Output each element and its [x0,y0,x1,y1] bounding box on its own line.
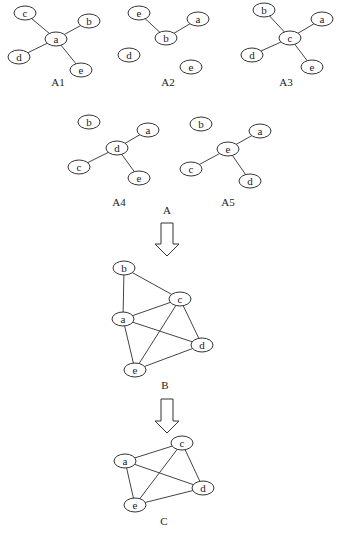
edge-b-a [123,268,124,319]
node-c: c [14,6,36,20]
panel-label-A4: A4 [112,196,125,208]
svg-text:e: e [310,61,315,73]
svg-text:d: d [200,482,206,494]
node-d: d [241,48,263,62]
svg-text:d: d [16,51,22,63]
node-b: b [78,115,100,129]
node-e: e [70,63,92,77]
edge-a-d [125,461,203,488]
panel-label-C: C [160,515,167,527]
node-d: d [8,50,30,64]
node-e: e [124,363,146,377]
svg-text:b: b [121,262,127,274]
panel-label-A2: A2 [161,76,174,88]
node-e: e [217,142,239,156]
node-d: d [239,174,261,188]
panel-label-A1: A1 [51,76,64,88]
panel-A5: baecd [180,117,271,188]
node-d: d [191,338,213,352]
node-a: a [311,12,333,26]
node-d: d [106,141,128,155]
edge-c-e [135,443,182,505]
svg-text:d: d [126,49,132,61]
svg-text:e: e [189,61,194,73]
node-b: b [190,117,212,131]
node-b: b [113,261,135,275]
edge-a-d [123,319,202,345]
svg-text:d: d [249,49,255,61]
svg-text:a: a [196,13,201,25]
svg-text:c: c [23,7,28,19]
node-e: e [124,498,146,512]
panel-label-B: B [161,379,168,391]
node-a: a [187,12,209,26]
node-a: a [45,32,67,46]
panel-C: cade [114,436,214,512]
svg-text:a: a [123,455,128,467]
svg-text:e: e [137,7,142,19]
svg-text:c: c [178,293,183,305]
edge-a-e [123,319,135,370]
node-e: e [128,171,150,185]
svg-text:c: c [288,32,293,44]
svg-text:e: e [133,364,138,376]
node-d: d [118,48,140,62]
panel-label-A5: A5 [221,196,234,208]
panel-A2: eabde [118,6,209,74]
svg-text:b: b [163,32,169,44]
svg-text:b: b [86,15,92,27]
node-e: e [128,6,150,20]
svg-text:e: e [79,64,84,76]
svg-text:d: d [114,142,120,154]
node-a: a [249,124,271,138]
node-e: e [180,60,202,74]
node-b: b [155,31,177,45]
node-e: e [301,60,323,74]
edge-e-d [135,345,202,370]
node-a: a [114,454,136,468]
group-label-A: A [163,204,171,216]
node-c: c [68,160,90,174]
panel-B: bcade [112,261,213,377]
svg-text:c: c [189,163,194,175]
node-a: a [137,123,159,137]
node-c: c [180,162,202,176]
svg-text:e: e [137,172,142,184]
svg-text:a: a [54,33,59,45]
svg-text:b: b [198,118,204,130]
node-c: c [171,436,193,450]
svg-text:c: c [77,161,82,173]
svg-text:b: b [261,4,267,16]
svg-text:a: a [121,313,126,325]
svg-text:e: e [133,499,138,511]
svg-text:d: d [247,175,253,187]
panel-A3: bacde [241,3,333,74]
panel-label-A3: A3 [279,76,292,88]
panel-A1: cbade [8,6,100,77]
svg-text:a: a [320,13,325,25]
svg-text:a: a [146,124,151,136]
node-d: d [192,481,214,495]
svg-text:c: c [180,437,185,449]
down-arrow-icon [155,399,179,433]
node-b: b [253,3,275,17]
edge-c-e [135,299,180,370]
node-a: a [112,312,134,326]
svg-text:e: e [226,143,231,155]
node-c: c [279,31,301,45]
node-c: c [169,292,191,306]
svg-text:b: b [86,116,92,128]
svg-text:d: d [199,339,205,351]
svg-text:a: a [258,125,263,137]
node-b: b [78,14,100,28]
down-arrow-icon [155,223,179,256]
panel-A4: badce [68,115,159,185]
